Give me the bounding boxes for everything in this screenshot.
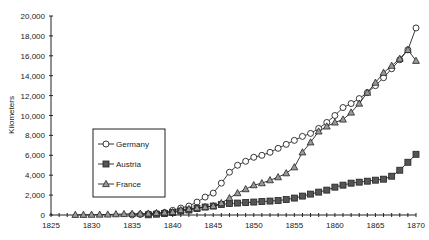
data-point [332,184,338,190]
x-tick-label: 1850 [245,221,263,230]
data-point [308,130,314,136]
data-point [389,173,395,179]
data-point [267,149,273,155]
data-point [332,113,338,119]
data-point [381,176,387,182]
y-tick-label: 14,000 [21,72,46,81]
y-tick-label: 20,000 [21,12,46,21]
legend-marker-icon [103,141,109,147]
legend-marker-icon [103,161,109,167]
data-point [202,194,208,200]
data-point [275,198,281,204]
data-point [72,211,79,217]
data-point [275,174,282,180]
y-tick-label: 0 [41,211,46,220]
data-point [283,141,289,147]
y-tick-label: 10,000 [21,112,46,121]
data-point [316,189,322,195]
axes: 02,0004,0006,0008,00010,00012,00014,0001… [21,12,426,230]
legend-label: France [116,180,141,189]
x-tick-label: 1835 [123,221,141,230]
data-point [388,62,395,68]
data-point [80,211,87,217]
y-tick-label: 2,000 [25,191,46,200]
y-tick-label: 8,000 [25,131,46,140]
data-point [291,164,298,170]
data-point [299,133,305,139]
x-tick-label: 1865 [367,221,385,230]
y-tick-label: 12,000 [21,92,46,101]
data-point [96,211,103,217]
series-germany [129,25,419,218]
railway-length-chart: 02,0004,0006,0008,00010,00012,00014,0001… [0,0,429,240]
data-point [405,159,411,165]
data-point [308,191,314,197]
data-point [267,198,273,204]
y-tick-label: 16,000 [21,52,46,61]
data-point [283,197,289,203]
data-point [226,201,232,207]
data-point [348,101,354,107]
x-tick-label: 1840 [164,221,182,230]
data-point [226,169,232,175]
x-tick-label: 1845 [204,221,222,230]
y-axis-title: Kilometers [7,96,16,134]
legend-label: Austria [116,160,141,169]
data-point [299,193,305,199]
data-point [372,177,378,183]
data-point [234,190,241,196]
data-point [88,211,95,217]
data-point [397,167,403,173]
data-point [259,199,265,205]
data-point [243,158,249,164]
data-point [413,151,419,157]
data-point [324,187,330,193]
y-tick-label: 18,000 [21,32,46,41]
x-tick-label: 1825 [42,221,60,230]
data-point [259,152,265,158]
x-tick-label: 1830 [83,221,101,230]
data-point [291,195,297,201]
data-point [210,190,216,196]
data-point [251,199,257,205]
data-point [235,200,241,206]
data-point [226,194,233,200]
data-point [340,105,346,111]
series-line [132,28,416,215]
data-point [243,200,249,206]
data-point [235,162,241,168]
x-tick-label: 1860 [326,221,344,230]
data-point [251,154,257,160]
y-tick-label: 6,000 [25,151,46,160]
data-point [218,180,224,186]
y-tick-label: 4,000 [25,171,46,180]
data-point [348,180,354,186]
data-point [275,145,281,151]
legend-label: Germany [116,140,149,149]
data-point [291,137,297,143]
series-austria [145,151,419,217]
data-point [283,170,290,176]
data-point [380,69,387,75]
x-tick-label: 1855 [285,221,303,230]
data-point [340,182,346,188]
data-point [242,186,249,192]
chart-svg: 02,0004,0006,0008,00010,00012,00014,0001… [0,0,429,240]
data-point [413,25,419,31]
data-point [340,116,347,122]
data-point [364,178,370,184]
legend: GermanyAustriaFrance [93,129,165,197]
data-point [356,179,362,185]
x-tick-label: 1870 [407,221,425,230]
